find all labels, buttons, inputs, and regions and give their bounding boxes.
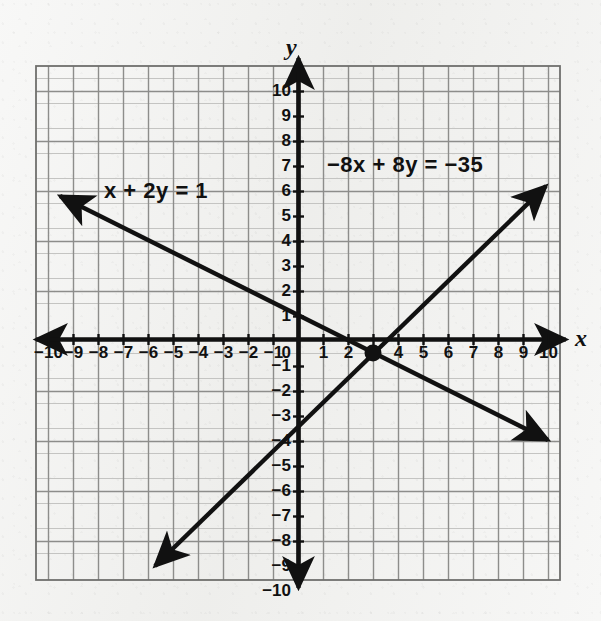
y-tick-label: −3: [272, 406, 291, 425]
y-tick-label: 4: [282, 231, 292, 250]
y-tick-label: −7: [272, 506, 291, 525]
origin-zero-label: 0: [282, 343, 291, 362]
y-tick-label: 3: [282, 256, 291, 275]
equation-label-line1: x + 2y = 1: [104, 178, 208, 204]
x-tick-label: 9: [519, 343, 528, 362]
axis-label-y: y: [286, 34, 297, 61]
x-tick-label: −9: [64, 343, 83, 362]
coordinate-plane-plot: −10−9−8−7−6−5−4−3−2−112345678910 1098765…: [0, 0, 601, 621]
y-tick-label: −2: [272, 381, 291, 400]
x-tick-label: −4: [189, 343, 209, 362]
intersection-point-marker[interactable]: [365, 345, 382, 362]
line-minus8x-plus-8y-equals-minus35[interactable]: [155, 186, 546, 566]
x-tick-label: −7: [114, 343, 133, 362]
y-tick-label: 7: [282, 156, 291, 175]
y-tick-label: 5: [282, 206, 291, 225]
x-tick-label: −2: [239, 343, 258, 362]
x-tick-label: 5: [419, 343, 428, 362]
x-tick-label: −8: [89, 343, 108, 362]
graph-page: −10−9−8−7−6−5−4−3−2−112345678910 1098765…: [0, 0, 601, 621]
y-tick-label: 8: [282, 131, 291, 150]
y-tick-label: 10: [272, 81, 291, 100]
y-tick-label: −10: [262, 581, 291, 600]
y-tick-label: 9: [282, 106, 291, 125]
axis-label-x: x: [575, 325, 587, 352]
x-tick-label: 8: [494, 343, 503, 362]
x-tick-label: −6: [139, 343, 158, 362]
y-tick-label: −6: [272, 481, 291, 500]
equation-label-line2: −8x + 8y = −35: [327, 152, 483, 178]
x-tick-label: 6: [444, 343, 453, 362]
y-tick-label: −8: [272, 531, 291, 550]
x-tick-label: −3: [214, 343, 233, 362]
x-tick-label: 2: [344, 343, 353, 362]
x-tick-label: −5: [164, 343, 183, 362]
y-tick-label: −9: [272, 556, 291, 575]
y-tick-label: 2: [282, 281, 291, 300]
x-tick-label: 7: [469, 343, 478, 362]
x-tick-label: 1: [319, 343, 328, 362]
x-tick-label: 10: [539, 343, 558, 362]
x-tick-label: −10: [34, 343, 63, 362]
x-tick-label: 4: [394, 343, 404, 362]
y-tick-label: −5: [272, 456, 291, 475]
x-axis-tick-labels: −10−9−8−7−6−5−4−3−2−112345678910: [34, 343, 558, 362]
y-tick-label: 6: [282, 181, 291, 200]
